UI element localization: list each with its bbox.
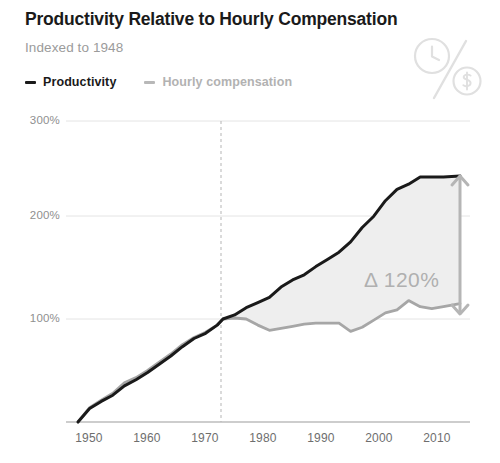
chart-root: Productivity Relative to Hourly Compensa… — [0, 0, 500, 463]
y-tick-label-200: 200% — [14, 209, 60, 221]
x-tick-label-1980: 1980 — [241, 431, 285, 445]
x-tick-label-1960: 1960 — [125, 431, 169, 445]
y-tick-label-100: 100% — [14, 312, 60, 324]
x-tick-label-1970: 1970 — [183, 431, 227, 445]
x-tick-label-2010: 2010 — [415, 431, 459, 445]
delta-annotation-label: Δ 120% — [364, 268, 439, 292]
plot-area: 300% 200% 100% 1950 1960 1970 1980 1990 … — [0, 0, 500, 463]
x-tick-label-1990: 1990 — [299, 431, 343, 445]
x-tick-label-1950: 1950 — [67, 431, 111, 445]
x-tick-label-2000: 2000 — [357, 431, 401, 445]
chart-svg — [0, 0, 500, 463]
y-tick-label-300: 300% — [14, 114, 60, 126]
